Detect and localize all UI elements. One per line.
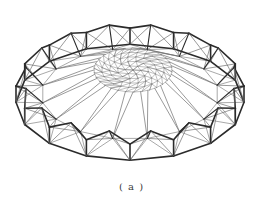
- central-disc-mesh: [94, 48, 172, 92]
- outer-ring-modules: [16, 25, 244, 160]
- figure-caption: ( a ): [0, 181, 263, 192]
